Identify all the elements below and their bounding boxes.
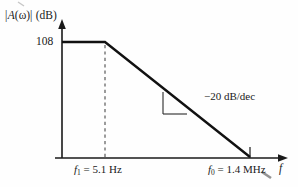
x-tick-f1-subscript: 1 bbox=[77, 168, 81, 177]
y-axis bbox=[58, 19, 66, 158]
x-tick-f1-value: 5.1 Hz bbox=[93, 163, 122, 175]
x-tick-f0-subscript: 0 bbox=[211, 168, 215, 177]
x-axis bbox=[55, 154, 288, 162]
x-tick-f1-equals: = bbox=[84, 163, 90, 175]
y-axis-title-bar-close: | bbox=[30, 9, 33, 21]
x-axis-title: f bbox=[279, 163, 282, 175]
y-axis-title-argument: (ω) bbox=[15, 9, 30, 21]
x-tick-f0-value: 1.4 MHz bbox=[227, 163, 266, 175]
slope-label: −20 dB/dec bbox=[204, 91, 255, 102]
y-tick-label-108: 108 bbox=[36, 36, 53, 48]
x-tick-f0-equals: = bbox=[218, 163, 224, 175]
y-axis-title-units: (dB) bbox=[36, 9, 57, 21]
x-tick-label-f0: f0 = 1.4 MHz bbox=[208, 164, 266, 176]
bode-plot-figure: |A(ω)| (dB) 108 −20 dB/dec f1 = 5.1 Hz f… bbox=[0, 0, 298, 187]
y-axis-title: |A(ω)| (dB) bbox=[5, 10, 57, 22]
y-axis-title-symbol: A bbox=[8, 9, 15, 21]
x-tick-label-f1: f1 = 5.1 Hz bbox=[74, 164, 122, 176]
